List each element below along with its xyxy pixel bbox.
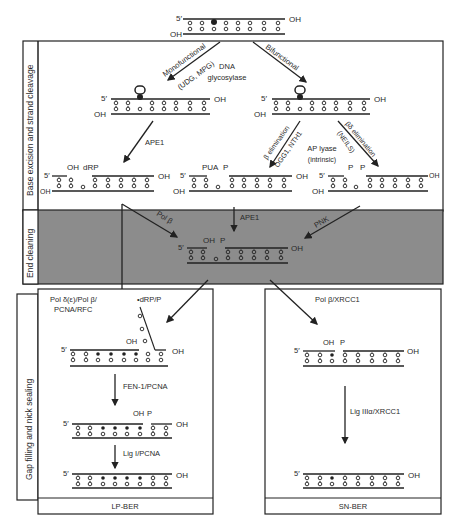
svg-text:OH: OH <box>214 95 226 104</box>
svg-text:5′: 5′ <box>294 469 300 478</box>
svg-text:P: P <box>360 163 365 172</box>
sn-ber-footer: SN-BER <box>339 502 368 511</box>
glycosylase-label: glycosylase <box>208 73 247 82</box>
lp-ber-panel <box>38 289 213 514</box>
svg-text:5′: 5′ <box>63 419 69 428</box>
oh-label: OH <box>289 15 301 24</box>
svg-text:5′: 5′ <box>101 94 107 103</box>
svg-text:OH: OH <box>203 236 215 245</box>
ape1-label: APE1 <box>145 138 164 147</box>
svg-text:OH: OH <box>173 187 185 196</box>
svg-text:OH: OH <box>296 172 308 181</box>
svg-text:OH: OH <box>291 244 303 253</box>
section-label-end-cleaning: End cleaning <box>25 229 35 278</box>
svg-text:P: P <box>348 163 353 172</box>
svg-text:OH: OH <box>312 187 324 196</box>
lp-ber-footer: LP-BER <box>111 502 139 511</box>
lp-polymerase-label: Pol δ(ε)/Pol β/ <box>50 295 98 304</box>
ape1-label: APE1 <box>240 213 259 222</box>
oh-label: OH <box>170 30 182 39</box>
svg-text:P: P <box>223 163 228 172</box>
lig1-label: Lig I/PCNA <box>123 449 160 458</box>
svg-text:P: P <box>220 236 225 245</box>
five-prime-label: 5′ <box>176 14 182 23</box>
svg-text:P: P <box>147 409 152 418</box>
svg-text:OH: OH <box>67 163 79 172</box>
svg-text:5′: 5′ <box>319 171 325 180</box>
svg-text:OH: OH <box>254 110 266 119</box>
svg-text:OH: OH <box>374 95 386 104</box>
section-label-base-excision: Base excision and strand cleavage <box>25 64 35 196</box>
ber-diagram: 5′ OH OH Base excision and strand cleava… <box>0 0 458 528</box>
svg-text:5′: 5′ <box>63 469 69 478</box>
svg-text:OH: OH <box>176 420 188 429</box>
svg-text:5′: 5′ <box>261 94 267 103</box>
sn-ber-panel <box>265 289 441 514</box>
svg-text:5′: 5′ <box>178 243 184 252</box>
fen1-label: FEN-1/PCNA <box>123 382 168 391</box>
ap-lyase-label: AP lyase <box>307 144 336 153</box>
svg-text:P: P <box>340 338 345 347</box>
top-dna: 5′ OH OH <box>170 14 301 39</box>
section-label-gap-filling: Gap filling and nick sealing <box>24 379 34 480</box>
svg-text:5′: 5′ <box>61 345 67 354</box>
svg-text:PUA: PUA <box>202 163 219 172</box>
svg-text:dRP: dRP <box>83 163 99 172</box>
sn-polymerase-label: Pol β/XRCC1 <box>315 295 360 304</box>
svg-text:OH: OH <box>429 172 440 179</box>
damaged-base-icon <box>211 19 217 25</box>
svg-text:OH: OH <box>172 347 184 356</box>
svg-text:OH: OH <box>176 471 188 480</box>
svg-text:5′: 5′ <box>44 171 50 180</box>
svg-text:OH: OH <box>94 110 106 119</box>
flap-label: •dRP/P <box>137 295 161 304</box>
end-cleaning-panel <box>23 210 443 284</box>
svg-text:OH: OH <box>126 337 137 346</box>
svg-text:OH: OH <box>133 409 144 418</box>
svg-text:OH: OH <box>158 172 170 181</box>
svg-text:OH: OH <box>40 188 51 195</box>
dna-label: DNA <box>219 62 235 71</box>
lig3-label: Lig IIIα/XRCC1 <box>350 407 400 416</box>
lp-polymerase2-label: PCNA/RFC <box>54 305 93 314</box>
svg-text:5′: 5′ <box>180 171 186 180</box>
svg-text:OH: OH <box>408 471 420 480</box>
intrinsic-label: (intrinsic) <box>308 156 336 164</box>
svg-text:OH: OH <box>323 338 334 347</box>
svg-text:OH: OH <box>407 347 419 356</box>
svg-text:5′: 5′ <box>294 346 300 355</box>
